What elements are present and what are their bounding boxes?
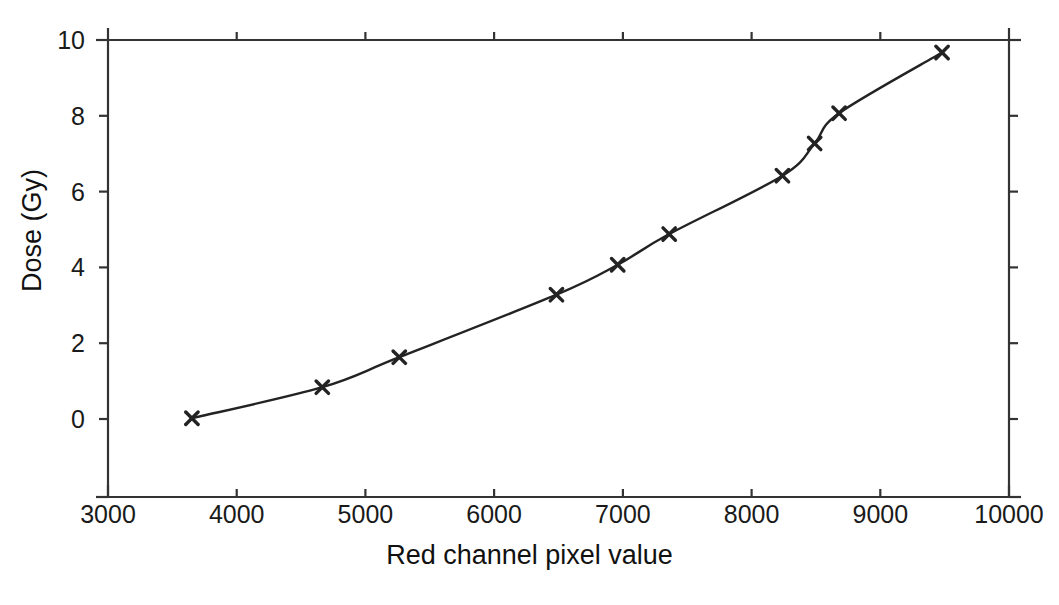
series-markers <box>186 46 949 424</box>
data-point-marker <box>393 351 405 363</box>
data-point-marker <box>663 228 675 240</box>
x-ticks-bottom <box>108 485 1009 497</box>
x-tick-label-6000: 6000 <box>466 500 522 529</box>
data-point-marker <box>612 259 624 271</box>
y-axis-title: Dose (Gy) <box>17 81 48 381</box>
data-point-marker <box>550 288 562 300</box>
x-tick-label-7000: 7000 <box>595 500 651 529</box>
data-point-marker <box>936 46 948 58</box>
x-tick-label-4000: 4000 <box>209 500 265 529</box>
y-ticks-left <box>96 40 108 497</box>
x-tick-label-9000: 9000 <box>852 500 908 529</box>
x-axis-title: Red channel pixel value <box>0 540 1059 571</box>
series-line <box>192 53 942 419</box>
y-tick-label-0: 0 <box>40 405 85 434</box>
x-tick-label-3000: 3000 <box>80 500 136 529</box>
x-tick-label-10000: 10000 <box>974 500 1044 529</box>
x-tick-label-5000: 5000 <box>338 500 394 529</box>
data-point-marker <box>808 137 820 149</box>
x-tick-label-8000: 8000 <box>724 500 780 529</box>
x-ticks-top <box>108 28 1009 40</box>
y-tick-label-10: 10 <box>25 26 85 55</box>
axes-frame <box>108 40 1009 497</box>
y-ticks-right <box>1009 40 1021 497</box>
data-point-marker <box>776 169 788 181</box>
data-point-marker <box>833 107 845 119</box>
chart-figure: 3000 4000 5000 6000 7000 8000 9000 10000… <box>0 0 1059 605</box>
